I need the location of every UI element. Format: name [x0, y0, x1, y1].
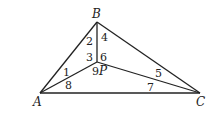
angle-label-3: 3 — [86, 51, 93, 64]
angle-label-2: 2 — [86, 35, 93, 48]
vertex-label-p: P — [98, 64, 108, 78]
vertex-label-b: B — [91, 7, 101, 21]
vertex-label-c: C — [196, 95, 205, 109]
angle-label-6: 6 — [100, 51, 107, 64]
angle-label-7: 7 — [147, 81, 154, 94]
angle-label-9: 9 — [92, 65, 99, 78]
angle-label-8: 8 — [65, 79, 72, 92]
triangle-diagram: B A C P 1 2 3 4 5 6 7 8 9 — [0, 0, 216, 118]
angle-label-1: 1 — [63, 66, 70, 79]
angle-label-4: 4 — [101, 31, 108, 44]
angle-label-5: 5 — [155, 67, 162, 80]
vertex-label-a: A — [32, 95, 42, 109]
